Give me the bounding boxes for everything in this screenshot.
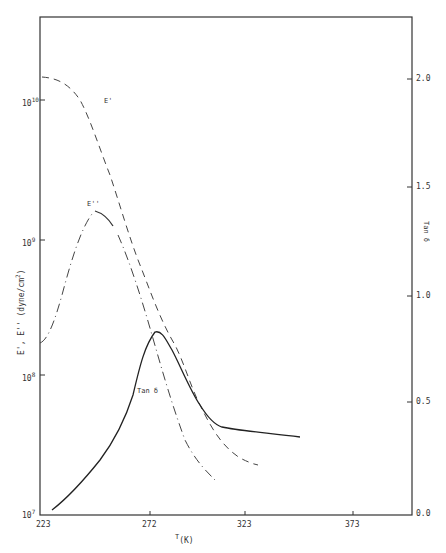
label-tan-delta: Tan δ xyxy=(137,387,158,395)
left-tick-base: 10 xyxy=(22,99,32,108)
x-tick-323: 323 xyxy=(237,520,251,529)
label-e-double-prime: E'' xyxy=(87,200,100,208)
left-tick-exp: 7 xyxy=(32,508,36,515)
right-tick-0-0: 0.0 xyxy=(416,509,430,518)
right-tick-2-0: 2.0 xyxy=(416,74,430,83)
left-tick-exp: 8 xyxy=(32,371,36,378)
plot-frame xyxy=(40,17,412,515)
left-tick-exp: 9 xyxy=(32,236,36,243)
right-tick-0-5: 0.5 xyxy=(416,397,430,406)
left-tick-base: 10 xyxy=(22,511,32,520)
x-tick-223: 223 xyxy=(36,520,50,529)
left-tick-1e10: 1010 xyxy=(22,96,39,108)
right-axis-ticks xyxy=(407,79,412,402)
left-tick-exp: 10 xyxy=(32,96,39,103)
left-tick-base: 10 xyxy=(22,374,32,383)
label-e-prime: E' xyxy=(104,97,112,105)
curve-e-prime xyxy=(42,77,258,465)
x-tick-373: 373 xyxy=(345,520,359,529)
x-tick-272: 272 xyxy=(142,520,156,529)
left-axis-title: E', E'' (dyne/cm2) xyxy=(14,269,26,355)
left-axis-title-text: E', E'' (dyne/cm xyxy=(17,278,26,355)
left-tick-1e9: 109 xyxy=(22,236,35,248)
left-axis-title-sup: 2 xyxy=(14,274,21,278)
curve-e-double-prime-tail xyxy=(118,235,215,480)
right-tick-1-0: 1.0 xyxy=(416,291,430,300)
left-tick-base: 10 xyxy=(22,239,32,248)
x-axis-title-unit: (K) xyxy=(179,536,193,545)
plot-area xyxy=(0,0,446,553)
right-tick-1-5: 1.5 xyxy=(416,182,430,191)
curve-e-double-prime-peak xyxy=(95,211,113,226)
right-axis-title: Tan δ xyxy=(422,221,430,242)
curve-tan-delta xyxy=(52,332,300,510)
left-axis-title-end: ) xyxy=(17,269,26,274)
left-axis-ticks xyxy=(40,100,45,375)
x-axis-title: T(K) xyxy=(175,533,194,545)
curve-e-double-prime xyxy=(40,214,92,343)
left-tick-1e7: 107 xyxy=(22,508,35,520)
left-tick-1e8: 108 xyxy=(22,371,35,383)
